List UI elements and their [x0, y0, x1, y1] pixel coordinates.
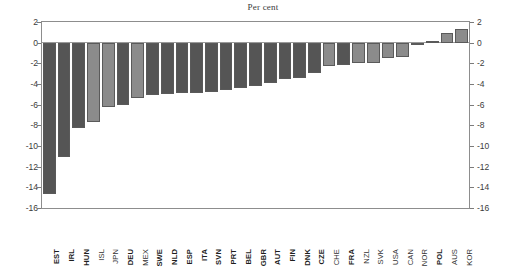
- y-tick-label-right-0: 0: [477, 39, 505, 47]
- y-tick-label-left-0: 0: [10, 39, 38, 47]
- x-tick-label-nor: NOR: [420, 249, 429, 266]
- bar-rect: [352, 43, 365, 64]
- x-tick-label-hun: HUN: [82, 249, 91, 266]
- y-tick-mark: [37, 208, 41, 209]
- y-tick-mark: [37, 63, 41, 64]
- y-tick-mark: [470, 125, 474, 126]
- y-tick-label-left-neg12: -12: [10, 163, 38, 171]
- bar-can: [395, 22, 410, 208]
- x-tick-label-prt: PRT: [229, 249, 238, 265]
- bar-isl: [86, 22, 101, 208]
- y-tick-mark: [37, 22, 41, 23]
- y-tick-label-left-2: 2: [10, 18, 38, 26]
- y-tick-mark: [470, 63, 474, 64]
- bar-nor: [410, 22, 425, 208]
- bar-fin: [278, 22, 293, 208]
- x-tick-label-fin: FIN: [288, 249, 297, 262]
- bar-rect: [117, 43, 130, 105]
- bar-rect: [43, 43, 56, 194]
- bar-bel: [233, 22, 248, 208]
- x-tick-label-est: EST: [52, 249, 61, 264]
- bar-rect: [146, 43, 159, 96]
- bar-rect: [161, 43, 174, 95]
- y-tick-label-right-neg16: -16: [477, 204, 505, 212]
- x-tick-label-mex: MEX: [141, 249, 150, 266]
- y-tick-label-right-neg8: -8: [477, 121, 505, 129]
- bar-rect: [279, 43, 292, 79]
- bar-rect: [102, 43, 115, 107]
- y-tick-label-right-neg2: -2: [477, 59, 505, 67]
- y-tick-label-right-neg4: -4: [477, 80, 505, 88]
- y-tick-mark: [470, 208, 474, 209]
- bar-rect: [396, 43, 409, 57]
- bar-rect: [87, 43, 100, 123]
- bar-rect: [58, 43, 71, 158]
- y-tick-label-left-neg4: -4: [10, 80, 38, 88]
- x-tick-label-bel: BEL: [244, 249, 253, 265]
- y-tick-label-right-neg14: -14: [477, 183, 505, 191]
- x-tick-label-can: CAN: [406, 249, 415, 265]
- y-tick-label-left-neg8: -8: [10, 121, 38, 129]
- bar-rect: [176, 43, 189, 94]
- bar-jpn: [101, 22, 116, 208]
- bar-rect: [293, 43, 306, 78]
- y-tick-mark: [37, 146, 41, 147]
- y-tick-mark: [470, 187, 474, 188]
- y-tick-label-left-neg2: -2: [10, 59, 38, 67]
- y-tick-label-right-neg6: -6: [477, 101, 505, 109]
- y-tick-mark: [37, 84, 41, 85]
- y-tick-mark: [37, 43, 41, 44]
- bar-prt: [219, 22, 234, 208]
- bar-rect: [264, 43, 277, 83]
- x-tick-label-jpn: JPN: [111, 249, 120, 264]
- bar-usa: [381, 22, 396, 208]
- x-tick-label-nzl: NZL: [362, 249, 371, 264]
- bar-hun: [71, 22, 86, 208]
- bar-deu: [116, 22, 131, 208]
- bar-rect: [411, 43, 424, 45]
- bar-rect: [441, 33, 454, 42]
- y-tick-mark: [470, 146, 474, 147]
- bar-rect: [205, 43, 218, 93]
- bar-series: [42, 22, 469, 208]
- x-tick-label-dnk: DNK: [303, 249, 312, 266]
- y-tick-label-right-2: 2: [477, 18, 505, 26]
- y-tick-mark: [470, 43, 474, 44]
- bar-aus: [440, 22, 455, 208]
- bar-cze: [307, 22, 322, 208]
- y-tick-label-left-neg6: -6: [10, 101, 38, 109]
- bar-mex: [130, 22, 145, 208]
- y-tick-label-left-neg14: -14: [10, 183, 38, 191]
- bar-rect: [426, 41, 439, 43]
- x-tick-label-cze: CZE: [317, 249, 326, 265]
- x-tick-label-deu: DEU: [126, 249, 135, 265]
- x-tick-label-esp: ESP: [185, 249, 194, 265]
- bar-kor: [454, 22, 469, 208]
- y-tick-mark: [37, 125, 41, 126]
- y-tick-mark: [470, 105, 474, 106]
- bar-rect: [382, 43, 395, 59]
- x-tick-label-irl: IRL: [67, 249, 76, 262]
- bar-rect: [190, 43, 203, 94]
- bar-svk: [366, 22, 381, 208]
- bar-rect: [308, 43, 321, 73]
- x-tick-label-kor: KOR: [465, 249, 474, 266]
- x-tick-label-swe: SWE: [155, 249, 164, 267]
- bar-rect: [131, 43, 144, 99]
- x-tick-label-svk: SVK: [376, 249, 385, 265]
- y-tick-mark: [37, 167, 41, 168]
- bar-rect: [220, 43, 233, 91]
- x-tick-label-che: CHE: [332, 249, 341, 265]
- x-tick-label-gbr: GBR: [259, 249, 268, 266]
- bar-rect: [249, 43, 262, 86]
- bar-esp: [175, 22, 190, 208]
- x-tick-label-usa: USA: [391, 249, 400, 265]
- bar-irl: [57, 22, 72, 208]
- bar-che: [322, 22, 337, 208]
- bar-dnk: [292, 22, 307, 208]
- bar-fra: [336, 22, 351, 208]
- bar-rect: [323, 43, 336, 67]
- bar-est: [42, 22, 57, 208]
- bar-rect: [234, 43, 247, 88]
- y-tick-label-left-neg16: -16: [10, 204, 38, 212]
